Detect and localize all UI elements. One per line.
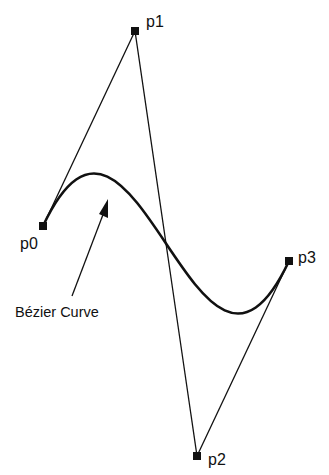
control-segment-p0-p1 xyxy=(43,31,135,226)
label-p1: p1 xyxy=(146,13,164,30)
control-segment-p2-p3 xyxy=(197,261,289,456)
label-p2: p2 xyxy=(208,451,226,468)
annotation-label: Bézier Curve xyxy=(15,304,99,320)
bezier-diagram: p0 p1 p2 p3 Bézier Curve xyxy=(0,0,329,475)
control-point-p3-marker[interactable] xyxy=(285,257,293,265)
control-point-p1-marker[interactable] xyxy=(131,27,139,35)
label-p0: p0 xyxy=(20,235,38,252)
control-point-p0-marker[interactable] xyxy=(39,222,47,230)
label-p3: p3 xyxy=(298,249,316,266)
bezier-curve xyxy=(43,173,289,313)
control-point-p2-marker[interactable] xyxy=(193,452,201,460)
annotation-arrowhead xyxy=(99,199,108,218)
annotation-arrow-shaft xyxy=(72,212,104,296)
